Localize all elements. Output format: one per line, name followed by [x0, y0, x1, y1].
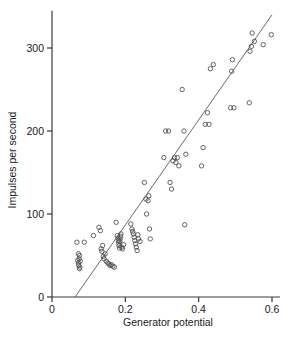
data-point	[91, 233, 95, 237]
y-tick-label: 300	[26, 42, 44, 54]
data-point	[177, 164, 181, 168]
y-tick-label: 100	[26, 208, 44, 220]
data-point	[261, 42, 265, 46]
data-point	[147, 194, 151, 198]
data-point	[144, 212, 148, 216]
axis-labels-layer: 010020030000.20.40.6Generator potentialI…	[6, 42, 279, 328]
data-point	[175, 155, 179, 159]
data-point	[247, 101, 251, 105]
data-point	[205, 111, 209, 115]
data-point	[232, 106, 236, 110]
data-point	[112, 265, 116, 269]
data-point	[136, 233, 140, 237]
data-point	[182, 129, 186, 133]
data-points-layer	[75, 31, 274, 271]
data-point	[129, 222, 133, 226]
x-tick-label: 0.2	[118, 303, 133, 315]
x-tick-label: 0.6	[265, 303, 280, 315]
data-point	[82, 240, 86, 244]
y-axis-title: Impulses per second	[6, 111, 18, 208]
y-tick-label: 0	[38, 291, 44, 303]
data-point	[183, 223, 187, 227]
data-point	[180, 87, 184, 91]
axes-layer	[47, 11, 280, 302]
data-point	[162, 155, 166, 159]
x-tick-label: 0	[49, 303, 55, 315]
data-point	[248, 49, 252, 53]
data-point	[114, 220, 118, 224]
scatter-plot-figure: 010020030000.20.40.6Generator potentialI…	[0, 0, 293, 345]
data-point	[148, 237, 152, 241]
data-point	[269, 33, 273, 37]
data-point	[211, 62, 215, 66]
data-point	[142, 180, 146, 184]
data-point	[75, 240, 79, 244]
data-point	[166, 129, 170, 133]
data-point	[169, 187, 173, 191]
data-point	[147, 227, 151, 231]
data-point	[201, 145, 205, 149]
x-axis-title: Generator potential	[123, 316, 213, 328]
data-point	[208, 67, 212, 71]
plot-canvas: 010020030000.20.40.6Generator potentialI…	[0, 0, 293, 345]
x-tick-label: 0.4	[191, 303, 206, 315]
y-tick-label: 200	[26, 125, 44, 137]
data-point	[230, 57, 234, 61]
data-point	[184, 152, 188, 156]
data-point	[250, 31, 254, 35]
data-point	[199, 164, 203, 168]
data-point	[168, 180, 172, 184]
